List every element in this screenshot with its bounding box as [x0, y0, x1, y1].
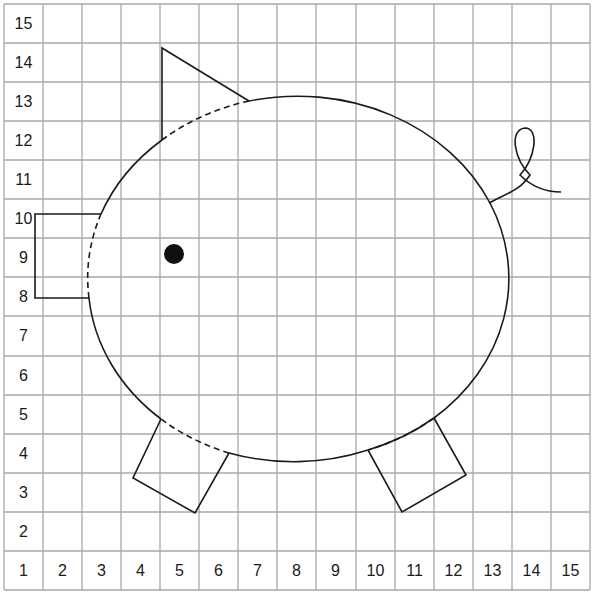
row-label-1: 1 — [4, 551, 43, 590]
row-label-2: 2 — [4, 512, 43, 551]
col-label-3: 3 — [82, 551, 121, 590]
row-label-15: 15 — [4, 4, 43, 43]
col-label-14: 14 — [512, 551, 551, 590]
row-label-12: 12 — [4, 121, 43, 160]
col-label-10: 10 — [356, 551, 395, 590]
row-label-10: 10 — [4, 199, 43, 238]
row-label-8: 8 — [4, 277, 43, 316]
body-dashed-snout — [88, 214, 101, 298]
col-label-15: 15 — [551, 551, 590, 590]
pig-grid-diagram: 15 14 13 12 11 10 9 8 7 6 5 4 3 2 1 2 3 … — [0, 0, 600, 595]
col-label-4: 4 — [121, 551, 160, 590]
eye — [164, 244, 184, 264]
col-label-11: 11 — [395, 551, 434, 590]
back-leg — [368, 418, 466, 512]
col-label-9: 9 — [316, 551, 355, 590]
col-label-7: 7 — [238, 551, 277, 590]
grid-canvas — [0, 0, 600, 595]
row-label-9: 9 — [4, 238, 43, 277]
col-label-5: 5 — [160, 551, 199, 590]
snout — [35, 214, 101, 298]
row-label-5: 5 — [4, 395, 43, 434]
row-label-7: 7 — [4, 316, 43, 355]
body-outline-bottom — [229, 450, 368, 462]
col-label-8: 8 — [277, 551, 316, 590]
row-label-3: 3 — [4, 473, 43, 512]
col-label-12: 12 — [434, 551, 473, 590]
row-label-11: 11 — [4, 160, 43, 199]
col-label-6: 6 — [199, 551, 238, 590]
row-label-4: 4 — [4, 434, 43, 473]
body-outline-left-upper — [101, 140, 162, 214]
body-outline — [249, 96, 509, 418]
col-label-2: 2 — [43, 551, 82, 590]
col-label-13: 13 — [473, 551, 512, 590]
row-label-6: 6 — [4, 356, 43, 395]
body-dashed-front-leg — [161, 419, 229, 453]
row-label-13: 13 — [4, 82, 43, 121]
grid-lines — [4, 4, 590, 590]
row-label-14: 14 — [4, 43, 43, 82]
ear — [162, 48, 249, 140]
tail — [489, 128, 561, 203]
